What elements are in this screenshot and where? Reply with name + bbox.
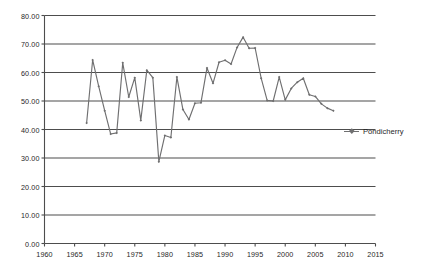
x-axis-tick-label: 1985 — [187, 250, 203, 259]
line-chart: 0.0010.0020.0030.0040.0050.0060.0070.008… — [0, 0, 425, 272]
x-axis-tick-label: 2000 — [277, 250, 293, 259]
x-axis-tick-label: 2005 — [307, 250, 323, 259]
x-axis-tick-label: 1975 — [127, 250, 143, 259]
x-axis-tick-label: 1995 — [247, 250, 263, 259]
x-axis-tick-label: 1980 — [157, 250, 173, 259]
y-axis-tick-label: 70.00 — [2, 40, 40, 49]
y-axis-tick-label: 80.00 — [2, 11, 40, 20]
y-axis-tick-label: 20.00 — [2, 182, 40, 191]
gridlines — [45, 16, 376, 216]
x-axis-tick-label: 2010 — [337, 250, 353, 259]
y-axis-tick-label: 10.00 — [2, 211, 40, 220]
legend-line-marker-icon — [344, 128, 359, 135]
y-axis-tick-label: 40.00 — [2, 125, 40, 134]
y-axis-tick-label: 50.00 — [2, 97, 40, 106]
legend-label-pondicherry: Pondicherry — [363, 127, 404, 136]
x-axis-tick-label: 1960 — [36, 250, 52, 259]
plot-area — [0, 0, 425, 272]
x-axis-tick-label: 1965 — [66, 250, 82, 259]
y-axis-tick-label: 0.00 — [2, 239, 40, 248]
y-axis-tick-label: 60.00 — [2, 68, 40, 77]
chart-legend: Pondicherry — [344, 127, 404, 136]
x-axis-tick-label: 1970 — [96, 250, 112, 259]
y-axis-tick-label: 30.00 — [2, 154, 40, 163]
data-series-pondicherry — [85, 36, 334, 163]
x-axis-tick-label: 2015 — [367, 250, 383, 259]
x-axis-tick-label: 1990 — [217, 250, 233, 259]
